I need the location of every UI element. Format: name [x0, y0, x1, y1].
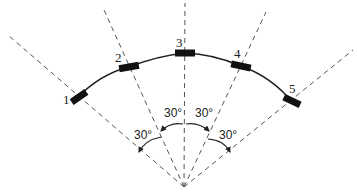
radial-line-minus-30 [104, 10, 184, 187]
angle-label-3: 30° [195, 106, 213, 120]
sensor-label-3: 3 [176, 35, 183, 50]
angle-label-4: 30° [219, 128, 237, 142]
sensor-label-5: 5 [289, 81, 296, 96]
angle-label-1: 30° [134, 128, 152, 142]
sensor-label-1: 1 [63, 92, 70, 107]
angle-label-2: 30° [164, 106, 182, 120]
angle-arc-2 [161, 124, 183, 131]
sensor-diagram: 1 2 3 4 5 30° 30° 30° 30° [0, 0, 357, 194]
sensor-2 [119, 62, 140, 72]
radial-line-0 [184, 3, 185, 187]
sensor-4 [230, 60, 251, 71]
sensor-5 [282, 94, 301, 108]
angle-arc-3 [186, 124, 209, 131]
sensor-label-4: 4 [234, 46, 241, 61]
radial-line-plus-30 [184, 12, 266, 187]
sensor-3 [175, 50, 195, 57]
sensor-label-2: 2 [115, 50, 122, 65]
